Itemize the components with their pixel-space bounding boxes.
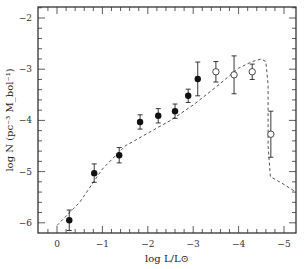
data-point bbox=[268, 111, 274, 157]
y-tick-label: −2 bbox=[19, 13, 32, 23]
y-axis-label: log N (pc⁻³ M_bol⁻¹) bbox=[4, 68, 16, 171]
data-point bbox=[195, 62, 201, 96]
data-point bbox=[231, 56, 237, 94]
y-tick-label: −5 bbox=[19, 167, 33, 177]
x-tick-label: −5 bbox=[277, 239, 291, 249]
data-points bbox=[66, 56, 274, 231]
model-curve bbox=[57, 59, 296, 225]
x-axis-label: log L/L⊙ bbox=[145, 253, 189, 264]
x-tick-labels: 0−1−2−3−4−5 bbox=[54, 239, 291, 249]
x-tick-label: 0 bbox=[54, 239, 60, 249]
x-tick-label: −4 bbox=[232, 239, 246, 249]
y-tick-labels: −2−3−4−5−6 bbox=[19, 13, 33, 228]
data-point bbox=[185, 89, 191, 102]
y-ticks bbox=[38, 8, 296, 223]
data-point bbox=[137, 115, 143, 129]
y-tick-label: −4 bbox=[19, 115, 33, 125]
chart: 0−1−2−3−4−5 −2−3−4−5−6 log L/L⊙ log N (p… bbox=[0, 0, 304, 269]
x-tick-label: −3 bbox=[187, 239, 201, 249]
y-tick-label: −6 bbox=[19, 218, 33, 228]
data-point bbox=[155, 109, 161, 123]
x-tick-label: −1 bbox=[96, 239, 109, 249]
x-ticks bbox=[48, 7, 284, 233]
data-point bbox=[249, 64, 255, 79]
data-point bbox=[66, 210, 72, 230]
plot-frame bbox=[38, 7, 296, 233]
data-point bbox=[213, 62, 219, 82]
x-tick-label: −2 bbox=[141, 239, 154, 249]
y-tick-label: −3 bbox=[19, 64, 33, 74]
data-point bbox=[91, 164, 97, 182]
